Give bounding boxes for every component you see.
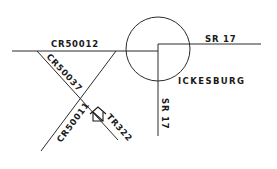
label-cr50037: CR50037 bbox=[45, 52, 85, 94]
label-sr17-south: SR 17 bbox=[160, 98, 170, 129]
label-cr50012: CR50012 bbox=[51, 39, 99, 49]
road-map: CR50012 SR 17 SR 17 CR50037 CR50011 TR32… bbox=[0, 0, 277, 169]
label-cr50011: CR50011 bbox=[55, 100, 92, 144]
label-tr322: TR322 bbox=[105, 112, 135, 144]
label-sr17-east: SR 17 bbox=[205, 34, 236, 44]
town-label: ICKESBURG bbox=[178, 76, 245, 86]
house-icon bbox=[90, 107, 106, 121]
